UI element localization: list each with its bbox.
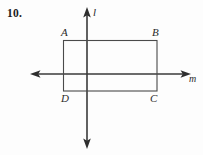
label-line-l: l (93, 7, 96, 18)
label-vertex-a: A (61, 27, 68, 38)
line-m (30, 70, 191, 78)
label-vertex-d: D (61, 93, 69, 104)
figure-canvas: 10. A B C D l m (0, 0, 203, 155)
label-vertex-c: C (150, 93, 157, 104)
line-l (83, 7, 91, 149)
geometry-diagram (0, 0, 203, 155)
label-line-m: m (189, 74, 196, 84)
rectangle-abcd (64, 41, 158, 92)
label-vertex-b: B (152, 27, 159, 38)
